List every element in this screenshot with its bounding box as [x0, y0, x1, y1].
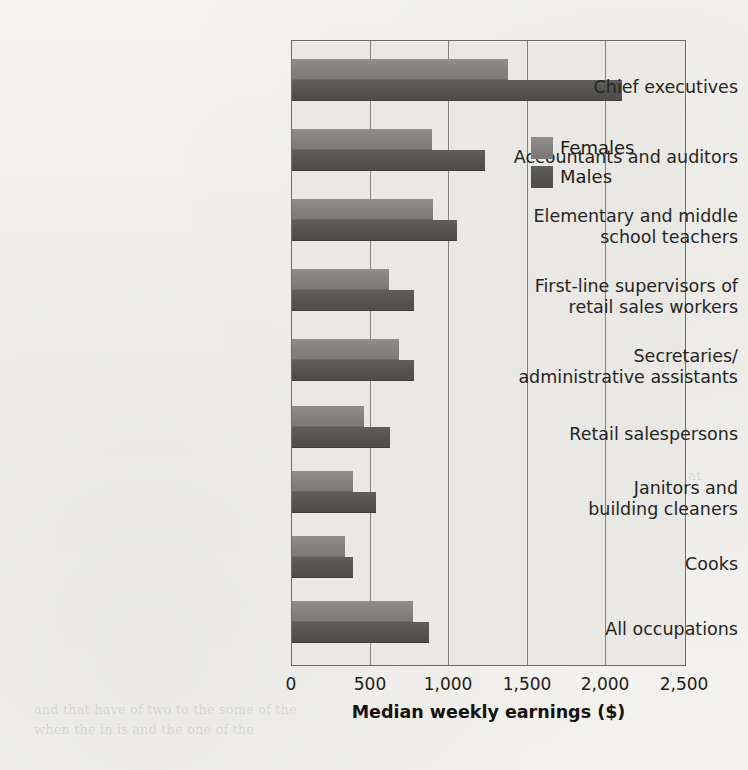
- males-swatch-icon: [531, 166, 553, 188]
- xtick-500: 500: [354, 674, 386, 694]
- bar-females-janitors-and-building-cleaners[interactable]: [292, 471, 353, 492]
- category-label-elementary-and-middle-school-teachers: Elementary and middle school teachers: [468, 206, 748, 248]
- bar-males-first-line-supervisors[interactable]: [292, 290, 414, 311]
- category-label-retail-salespersons: Retail salespersons: [468, 424, 748, 445]
- legend-label-males: Males: [560, 166, 612, 187]
- xtick-2000: 2,000: [581, 674, 630, 694]
- bar-females-retail-salespersons[interactable]: [292, 406, 364, 427]
- category-label-all-occupations: All occupations: [468, 619, 748, 640]
- bar-males-janitors-and-building-cleaners[interactable]: [292, 492, 376, 513]
- bar-females-first-line-supervisors[interactable]: [292, 269, 389, 290]
- legend-item-females[interactable]: Females: [531, 133, 671, 162]
- category-label-janitors-and-building-cleaners: Janitors and building cleaners: [468, 478, 748, 520]
- legend: Females Males: [531, 133, 671, 191]
- bar-females-secretaries[interactable]: [292, 339, 399, 360]
- bar-males-retail-salespersons[interactable]: [292, 427, 390, 448]
- bar-males-cooks[interactable]: [292, 557, 353, 578]
- bar-females-cooks[interactable]: [292, 536, 345, 557]
- xtick-1500: 1,500: [503, 674, 552, 694]
- category-label-secretaries: Secretaries/ administrative assistants: [468, 346, 748, 388]
- bar-females-accountants-and-auditors[interactable]: [292, 129, 432, 150]
- xtick-1000: 1,000: [424, 674, 473, 694]
- median-weekly-earnings-bar-chart: Chief executives Accountants and auditor…: [0, 0, 748, 770]
- bar-males-elementary-and-middle-school-teachers[interactable]: [292, 220, 457, 241]
- females-swatch-icon: [531, 137, 553, 159]
- bar-males-all-occupations[interactable]: [292, 622, 429, 643]
- bar-males-secretaries[interactable]: [292, 360, 414, 381]
- gridline-1000: [448, 41, 449, 665]
- xtick-2500: 2,500: [660, 674, 709, 694]
- xtick-0: 0: [286, 674, 297, 694]
- bar-females-all-occupations[interactable]: [292, 601, 413, 622]
- bar-males-accountants-and-auditors[interactable]: [292, 150, 485, 171]
- category-label-cooks: Cooks: [468, 554, 748, 575]
- x-axis-title: Median weekly earnings ($): [291, 702, 686, 722]
- category-label-chief-executives: Chief executives: [468, 77, 748, 98]
- legend-item-males[interactable]: Males: [531, 162, 671, 191]
- category-label-first-line-supervisors: First-line supervisors of retail sales w…: [468, 276, 748, 318]
- legend-label-females: Females: [560, 137, 634, 158]
- bar-females-elementary-and-middle-school-teachers[interactable]: [292, 199, 433, 220]
